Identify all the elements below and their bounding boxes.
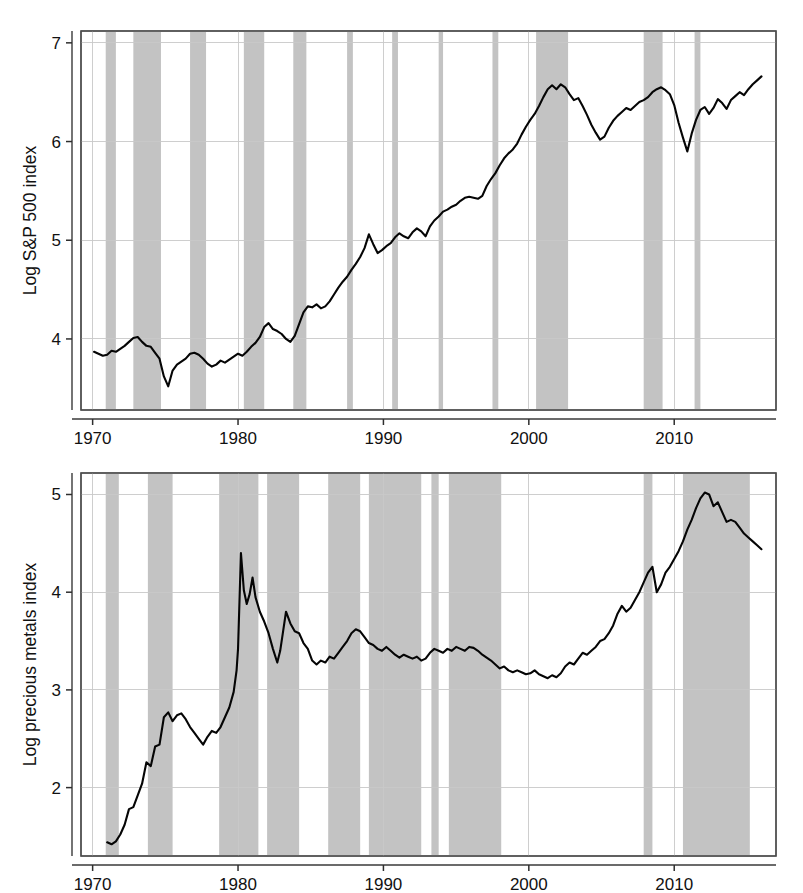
- recession-band: [644, 474, 653, 855]
- recession-band: [219, 474, 258, 855]
- recession-band: [431, 474, 438, 855]
- recession-band: [293, 32, 306, 409]
- x-tick-label: 1990: [365, 875, 403, 893]
- recession-band: [347, 32, 353, 409]
- x-tick-label: 1980: [219, 875, 257, 893]
- x-tick-label: 1980: [219, 429, 257, 446]
- recession-band: [392, 32, 398, 409]
- x-tick-label: 2000: [510, 875, 548, 893]
- y-tick-label: 2: [52, 779, 61, 798]
- recession-band: [492, 32, 498, 409]
- recession-band: [439, 32, 443, 409]
- plot-area-background: [81, 473, 776, 856]
- y-tick-label: 7: [52, 34, 61, 53]
- figure-container: 456719701980199020002010Log S&P 500 inde…: [0, 0, 803, 893]
- y-tick-label: 5: [52, 231, 61, 250]
- x-tick-label: 2000: [510, 429, 548, 446]
- sp500-chart-svg: 456719701980199020002010Log S&P 500 inde…: [0, 0, 803, 446]
- recession-band: [369, 474, 421, 855]
- recession-band: [536, 32, 568, 409]
- y-tick-label: 5: [52, 485, 61, 504]
- y-axis-title: Log precious metals index: [20, 563, 40, 767]
- chart-panel-precious-metals: 234519701980199020002010Log precious met…: [0, 446, 803, 893]
- recession-band: [328, 474, 360, 855]
- chart-panel-sp500: 456719701980199020002010Log S&P 500 inde…: [0, 0, 803, 446]
- recession-band: [695, 32, 701, 409]
- recession-band: [449, 474, 501, 855]
- recession-band: [683, 474, 750, 855]
- y-tick-label: 6: [52, 133, 61, 152]
- plot-area-background: [81, 31, 776, 410]
- x-tick-label: 1990: [365, 429, 403, 446]
- recession-band: [106, 474, 119, 855]
- recession-band: [267, 474, 299, 855]
- recession-band: [133, 32, 161, 409]
- y-tick-label: 3: [52, 681, 61, 700]
- y-tick-label: 4: [52, 583, 61, 602]
- x-tick-label: 1970: [74, 429, 112, 446]
- recession-band: [148, 474, 173, 855]
- y-tick-label: 4: [52, 330, 61, 349]
- x-tick-label: 2010: [655, 429, 693, 446]
- precious-metals-chart-svg: 234519701980199020002010Log precious met…: [0, 446, 803, 893]
- y-axis-title: Log S&P 500 index: [20, 145, 40, 295]
- x-tick-label: 1970: [74, 875, 112, 893]
- x-tick-label: 2010: [655, 875, 693, 893]
